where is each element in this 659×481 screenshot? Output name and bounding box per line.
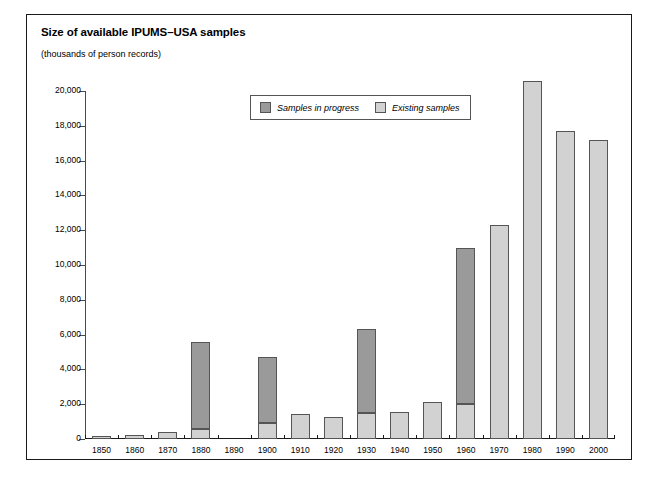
- bar-segment-in-progress[interactable]: [357, 329, 376, 413]
- y-axis-tick-label: 4,000: [60, 363, 81, 373]
- bar-group[interactable]: [357, 329, 376, 439]
- x-axis-tick-mark: [284, 435, 285, 439]
- x-axis-tick-mark: [184, 435, 185, 439]
- y-axis-tick-label: 18,000: [55, 120, 81, 130]
- y-axis-tick-label: 2,000: [60, 398, 81, 408]
- bar-group[interactable]: [423, 402, 442, 439]
- bar-group[interactable]: [589, 140, 608, 439]
- y-axis-tick-label: 0: [76, 433, 81, 443]
- bar-segment-existing[interactable]: [92, 436, 111, 439]
- x-axis-tick-mark: [582, 435, 583, 439]
- bar-group[interactable]: [158, 432, 177, 439]
- bar-segment-in-progress[interactable]: [258, 357, 277, 423]
- y-axis-tick-label: 6,000: [60, 329, 81, 339]
- x-axis-tick-label: 2000: [578, 445, 618, 455]
- x-axis-tick-mark: [251, 435, 252, 439]
- chart-subtitle: (thousands of person records): [41, 49, 161, 59]
- bar-segment-in-progress[interactable]: [191, 342, 210, 429]
- bar-group[interactable]: [324, 417, 343, 439]
- x-axis-tick-mark: [416, 435, 417, 439]
- bar-group[interactable]: [456, 248, 475, 439]
- bar-group[interactable]: [258, 357, 277, 439]
- bar-group[interactable]: [125, 435, 144, 439]
- bar-segment-existing[interactable]: [191, 429, 210, 439]
- x-axis-tick-mark: [516, 435, 517, 439]
- bar-segment-in-progress[interactable]: [456, 248, 475, 405]
- x-axis-tick-mark: [449, 435, 450, 439]
- x-axis-tick-mark: [549, 435, 550, 439]
- bar-group[interactable]: [556, 131, 575, 439]
- bar-segment-existing[interactable]: [125, 435, 144, 439]
- bar-segment-existing[interactable]: [291, 414, 310, 439]
- y-axis-tick-label: 16,000: [55, 155, 81, 165]
- chart-title: Size of available IPUMS–USA samples: [41, 26, 245, 38]
- bar-segment-existing[interactable]: [490, 225, 509, 439]
- bar-segment-existing[interactable]: [357, 413, 376, 439]
- x-axis-tick-mark: [218, 435, 219, 439]
- x-axis-tick-mark: [614, 435, 615, 439]
- bar-segment-existing[interactable]: [390, 412, 409, 439]
- x-axis-tick-mark: [483, 435, 484, 439]
- bar-segment-existing[interactable]: [556, 131, 575, 439]
- y-axis-tick-label: 20,000: [55, 85, 81, 95]
- bar-group[interactable]: [291, 414, 310, 439]
- y-axis-tick-label: 8,000: [60, 294, 81, 304]
- x-axis-tick-mark: [383, 435, 384, 439]
- bar-group[interactable]: [390, 412, 409, 439]
- x-axis-tick-mark: [118, 435, 119, 439]
- bar-group[interactable]: [191, 342, 210, 439]
- bar-segment-existing[interactable]: [523, 81, 542, 439]
- x-axis-tick-mark: [350, 435, 351, 439]
- y-axis-tick-label: 12,000: [55, 224, 81, 234]
- bar-segment-existing[interactable]: [456, 404, 475, 439]
- y-axis-tick-label: 14,000: [55, 189, 81, 199]
- chart-figure-frame: Size of available IPUMS–USA samples (tho…: [26, 14, 632, 460]
- bar-segment-existing[interactable]: [324, 417, 343, 439]
- bar-group[interactable]: [523, 81, 542, 439]
- bar-segment-existing[interactable]: [158, 432, 177, 439]
- bar-group[interactable]: [490, 225, 509, 439]
- bar-group[interactable]: [92, 436, 111, 439]
- x-axis-tick-mark: [317, 435, 318, 439]
- x-axis-tick-mark: [151, 435, 152, 439]
- bar-segment-existing[interactable]: [589, 140, 608, 439]
- bar-group[interactable]: [225, 438, 244, 439]
- y-axis-tick-label: 10,000: [55, 259, 81, 269]
- bars-layer: [85, 91, 615, 439]
- plot-area: 02,0004,0006,0008,00010,00012,00014,0001…: [85, 91, 615, 439]
- bar-segment-existing[interactable]: [258, 423, 277, 439]
- x-axis-tick-mark: [85, 435, 86, 439]
- bar-segment-existing[interactable]: [423, 402, 442, 439]
